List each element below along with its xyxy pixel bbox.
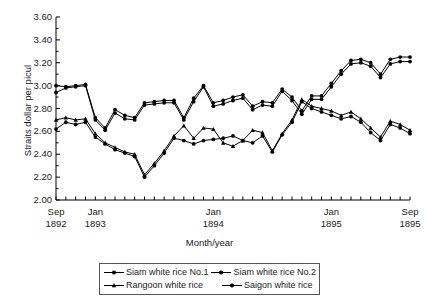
legend-marker-circle-icon bbox=[221, 281, 243, 290]
legend-marker-circle-icon bbox=[210, 268, 232, 277]
y-tick-label: 3.40 bbox=[18, 35, 52, 45]
legend-marker-triangle-icon bbox=[103, 281, 125, 290]
axis-lines bbox=[56, 17, 410, 200]
y-axis-tick-labels: 2.002.202.402.602.803.003.203.403.60 bbox=[16, 0, 52, 210]
legend-label: Siam white rice No.2 bbox=[233, 268, 316, 277]
legend-row: Siam white rice No.1 Siam white rice No.… bbox=[103, 266, 316, 279]
legend-label: Saigon white rice bbox=[244, 281, 313, 290]
legend-marker-circle-icon bbox=[103, 268, 125, 277]
x-tick-label: Sep1895 bbox=[380, 206, 425, 229]
axis-ticks bbox=[56, 17, 410, 200]
legend-entry-siam-no-2: Siam white rice No.2 bbox=[210, 268, 316, 277]
y-tick-label: 2.00 bbox=[18, 195, 52, 205]
x-axis-label: Month/year bbox=[0, 237, 419, 248]
y-tick-label: 2.20 bbox=[18, 172, 52, 182]
y-tick-label: 2.60 bbox=[18, 126, 52, 136]
legend-label: Siam white rice No.1 bbox=[126, 268, 209, 277]
legend-label: Rangoon white rice bbox=[126, 281, 203, 290]
legend-row: Rangoon white rice Saigon white rice bbox=[103, 279, 316, 292]
legend-entry-saigon: Saigon white rice bbox=[221, 281, 313, 290]
series-line bbox=[54, 100, 412, 179]
y-tick-label: 3.60 bbox=[18, 12, 52, 22]
x-tick-label: Jan1893 bbox=[65, 206, 125, 229]
y-tick-label: 2.40 bbox=[18, 149, 52, 159]
x-tick-label: Jan1894 bbox=[183, 206, 243, 229]
series-line bbox=[54, 55, 412, 130]
legend-entry-rangoon: Rangoon white rice bbox=[103, 281, 221, 290]
y-tick-label: 2.80 bbox=[18, 104, 52, 114]
y-tick-label: 3.00 bbox=[18, 81, 52, 91]
legend-entry-siam-no-1: Siam white rice No.1 bbox=[103, 268, 210, 277]
chart-legend: Siam white rice No.1 Siam white rice No.… bbox=[99, 263, 320, 295]
y-tick-label: 3.20 bbox=[18, 58, 52, 68]
x-tick-label: Jan1895 bbox=[301, 206, 361, 229]
